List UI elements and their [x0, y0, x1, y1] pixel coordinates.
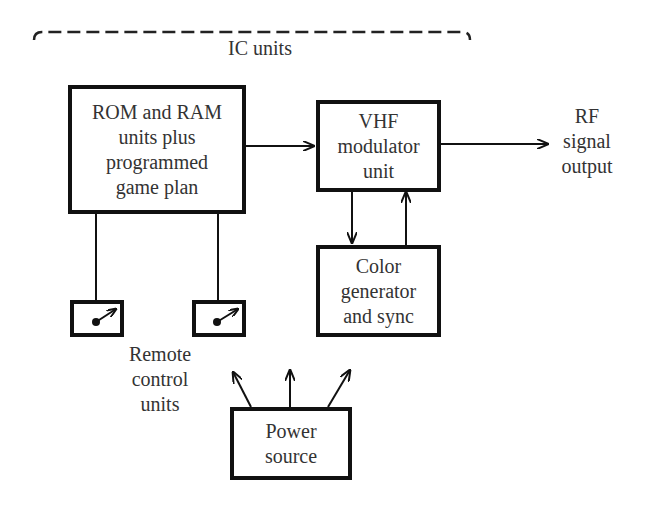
power-source-block: Power source	[230, 407, 352, 480]
remote-control-label: Remote control units	[110, 342, 210, 417]
